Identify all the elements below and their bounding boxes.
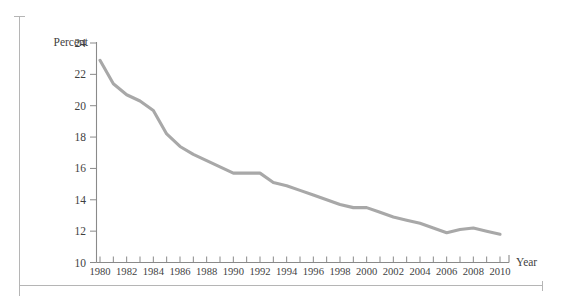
- x-tick-label: 1998: [329, 266, 350, 277]
- x-tick-label: 1994: [276, 266, 298, 277]
- x-tick-label: 2000: [356, 266, 377, 277]
- data-series-line: [100, 60, 500, 234]
- x-tick-label: 1996: [303, 266, 324, 277]
- y-tick-label: 16: [75, 162, 87, 174]
- x-tick-label: 2008: [463, 266, 484, 277]
- x-axis-ticks: 1980198219841986198819901992199419961998…: [89, 257, 510, 277]
- x-tick-label: 1990: [223, 266, 244, 277]
- x-tick-label: 2006: [436, 266, 457, 277]
- y-tick-label: 10: [75, 257, 87, 269]
- y-tick-label: 18: [75, 131, 87, 143]
- x-tick-label: 1986: [169, 266, 190, 277]
- x-tick-label: 1984: [143, 266, 165, 277]
- y-tick-label: 20: [75, 100, 87, 112]
- plot-axes: [97, 42, 510, 263]
- x-tick-label: 2004: [409, 266, 431, 277]
- line-chart: 1012141618202224 19801982198419861988199…: [0, 0, 562, 307]
- x-tick-label: 2010: [489, 266, 510, 277]
- x-tick-label: 1992: [249, 266, 270, 277]
- chart-figure: 1012141618202224 19801982198419861988199…: [0, 0, 562, 307]
- y-axis-title: Percent: [54, 36, 89, 48]
- x-axis-title: Year: [516, 256, 537, 268]
- x-tick-label: 1980: [89, 266, 110, 277]
- y-tick-label: 14: [75, 194, 87, 206]
- x-tick-label: 1982: [116, 266, 137, 277]
- y-axis-ticks: 1012141618202224: [75, 37, 97, 269]
- y-tick-label: 12: [75, 225, 87, 237]
- x-tick-label: 1988: [196, 266, 217, 277]
- x-tick-label: 2002: [383, 266, 404, 277]
- figure-frame: [14, 16, 543, 296]
- y-tick-label: 22: [75, 68, 87, 80]
